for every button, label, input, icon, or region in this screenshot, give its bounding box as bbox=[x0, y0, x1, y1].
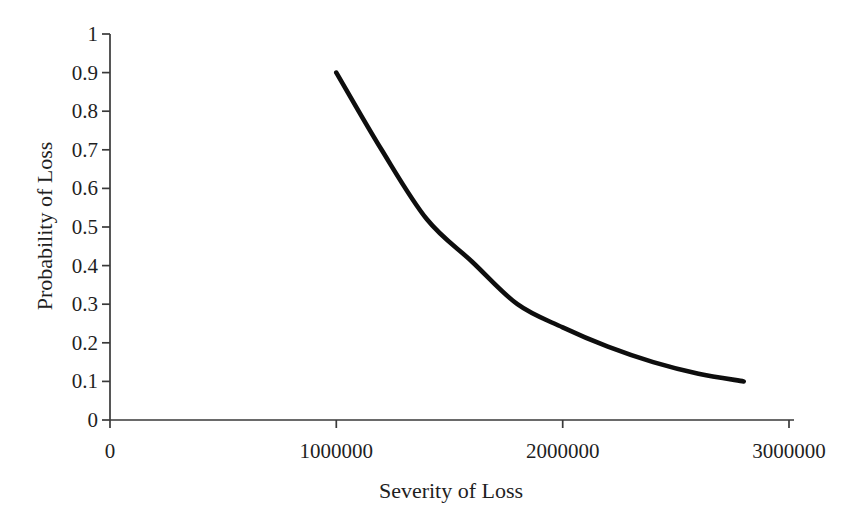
figure-probability-vs-severity: 00.10.20.30.40.50.60.70.80.9101000000200… bbox=[0, 0, 862, 529]
y-tick-label: 0.5 bbox=[72, 215, 98, 239]
x-tick-label: 3000000 bbox=[752, 439, 826, 463]
loss-curve bbox=[336, 73, 743, 382]
y-tick-label: 0.3 bbox=[72, 292, 98, 316]
x-tick-label: 2000000 bbox=[526, 439, 600, 463]
y-tick-label: 0 bbox=[88, 408, 99, 432]
x-tick-label: 1000000 bbox=[300, 439, 374, 463]
y-tick-label: 0.8 bbox=[72, 99, 98, 123]
y-tick-label: 1 bbox=[88, 22, 99, 46]
axis-spine bbox=[110, 34, 794, 420]
y-axis-title: Probability of Loss bbox=[32, 142, 57, 311]
y-tick-label: 0.2 bbox=[72, 331, 98, 355]
chart-generated-layer: 00.10.20.30.40.50.60.70.80.9101000000200… bbox=[72, 22, 826, 463]
y-tick-label: 0.7 bbox=[72, 138, 98, 162]
chart-canvas: 00.10.20.30.40.50.60.70.80.9101000000200… bbox=[0, 0, 862, 529]
y-tick-label: 0.6 bbox=[72, 176, 98, 200]
x-tick-label: 0 bbox=[105, 439, 116, 463]
y-tick-label: 0.1 bbox=[72, 369, 98, 393]
y-tick-label: 0.4 bbox=[72, 254, 99, 278]
y-tick-label: 0.9 bbox=[72, 61, 98, 85]
x-axis-title: Severity of Loss bbox=[379, 478, 523, 503]
